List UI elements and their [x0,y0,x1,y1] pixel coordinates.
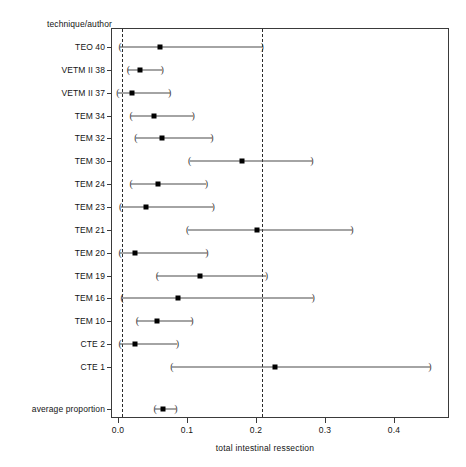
ci-cap-left: ( [188,156,191,166]
confidence-interval-line [172,366,430,367]
ci-cap-right: ) [310,156,313,166]
ci-cap-right: ) [350,225,353,235]
row-tick [107,47,112,48]
confidence-interval-line [120,47,262,48]
ci-cap-right: ) [261,42,264,52]
row-label-tem-21: TEM 21 [0,225,105,235]
ci-cap-left: ( [118,339,121,349]
ci-cap-left: ( [120,293,123,303]
ci-cap-right: ) [176,339,179,349]
row-tick [107,253,112,254]
ci-cap-left: ( [156,271,159,281]
x-axis-tick [118,418,119,423]
ci-cap-right: ) [160,65,163,75]
estimate-marker [138,67,143,72]
ci-cap-left: ( [170,362,173,372]
row-tick [107,344,112,345]
estimate-marker [198,273,203,278]
ci-cap-right: ) [210,133,213,143]
estimate-marker [151,113,156,118]
ci-cap-right: ) [174,404,177,414]
ci-cap-left: ( [119,202,122,212]
row-label-tem-32: TEM 32 [0,133,105,143]
row-tick [107,409,112,410]
estimate-marker [133,342,138,347]
ci-cap-right: ) [168,88,171,98]
row-tick [107,298,112,299]
ci-cap-right: ) [205,179,208,189]
row-label-tem-16: TEM 16 [0,293,105,303]
estimate-marker [160,406,165,411]
row-label-average-proportion: average proportion [0,404,105,414]
ci-cap-right: ) [190,316,193,326]
ci-cap-left: ( [116,88,119,98]
confidence-interval-line [190,161,312,162]
estimate-marker [155,319,160,324]
confidence-interval-line [121,206,213,207]
estimate-marker [254,227,259,232]
confidence-interval-line [137,321,192,322]
ci-cap-left: ( [129,111,132,121]
forest-plot: technique/author TEO 40()VETM II 38()VET… [0,0,466,467]
row-tick [107,321,112,322]
ci-cap-left: ( [118,42,121,52]
plot-frame [111,28,449,418]
x-axis-tick [325,418,326,423]
confidence-interval-line [131,184,206,185]
row-tick [107,367,112,368]
row-label-vetm-ii-37: VETM II 37 [0,88,105,98]
row-label-tem-24: TEM 24 [0,179,105,189]
x-axis-tick-label: 0.2 [250,425,262,435]
estimate-marker [156,182,161,187]
estimate-marker [160,136,165,141]
x-axis-tick [187,418,188,423]
y-axis-title: technique/author [47,19,112,29]
ci-cap-left: ( [127,65,130,75]
ci-cap-right: ) [212,202,215,212]
row-tick [107,276,112,277]
x-axis-tick-label: 0.0 [112,425,124,435]
row-label-cte-2: CTE 2 [0,339,105,349]
ci-cap-left: ( [154,404,157,414]
estimate-marker [133,250,138,255]
ci-cap-right: ) [205,248,208,258]
confidence-interval-line [131,115,193,116]
upper-reference-line [262,29,263,417]
x-axis-tick-label: 0.4 [388,425,400,435]
row-tick [107,184,112,185]
estimate-marker [158,45,163,50]
ci-cap-right: ) [192,111,195,121]
estimate-marker [273,364,278,369]
estimate-marker [176,296,181,301]
confidence-interval-line [155,408,176,409]
ci-cap-left: ( [129,179,132,189]
x-axis-tick [256,418,257,423]
confidence-interval-line [118,92,170,93]
row-label-tem-23: TEM 23 [0,202,105,212]
ci-cap-left: ( [118,248,121,258]
confidence-interval-line [128,69,162,70]
x-axis-tick-label: 0.1 [181,425,193,435]
row-label-tem-20: TEM 20 [0,248,105,258]
row-tick [107,138,112,139]
row-tick [107,70,112,71]
ci-cap-left: ( [134,133,137,143]
row-tick [107,207,112,208]
x-axis-tick-label: 0.3 [319,425,331,435]
estimate-marker [240,159,245,164]
row-tick [107,161,112,162]
estimate-marker [144,204,149,209]
row-tick [107,93,112,94]
row-label-teo-40: TEO 40 [0,42,105,52]
row-label-cte-1: CTE 1 [0,362,105,372]
x-axis-tick [394,418,395,423]
ci-cap-right: ) [428,362,431,372]
estimate-marker [129,90,134,95]
row-label-tem-10: TEM 10 [0,316,105,326]
confidence-interval-line [120,344,177,345]
ci-cap-left: ( [136,316,139,326]
lower-reference-line [122,29,123,417]
ci-cap-left: ( [186,225,189,235]
row-label-tem-34: TEM 34 [0,111,105,121]
confidence-interval-line [157,275,266,276]
